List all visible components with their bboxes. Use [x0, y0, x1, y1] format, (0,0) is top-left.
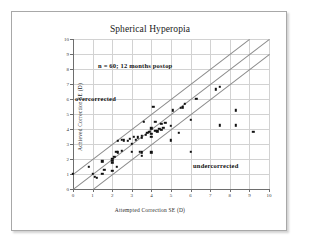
- y-axis-tick: [70, 114, 73, 115]
- x-axis-tick: [210, 189, 211, 192]
- reference-line-plus-one-diopter: [73, 39, 250, 175]
- scatter-point: [135, 138, 137, 140]
- scatter-point: [136, 136, 138, 138]
- scatter-point: [150, 151, 152, 153]
- scatter-point: [184, 102, 186, 104]
- y-axis-tick: [70, 159, 73, 160]
- y-axis-tick-label: 6: [67, 97, 70, 102]
- scatter-point: [170, 125, 172, 127]
- scatter-point: [178, 132, 180, 134]
- scatter-point: [95, 177, 97, 179]
- x-axis-title: Attempted Correction SE (D): [12, 207, 288, 213]
- scatter-point: [162, 126, 164, 128]
- scatter-point: [195, 98, 197, 100]
- x-axis-tick-label: 2: [111, 193, 114, 198]
- scatter-point: [140, 135, 142, 137]
- scatter-point: [113, 156, 115, 158]
- y-axis-tick-label: 8: [67, 67, 70, 72]
- scatter-point: [87, 165, 89, 167]
- x-axis-tick: [112, 189, 113, 192]
- y-axis-tick: [70, 144, 73, 145]
- x-axis-tick-label: 7: [209, 193, 212, 198]
- x-axis-tick: [230, 189, 231, 192]
- y-axis-tick: [70, 129, 73, 130]
- y-axis-tick-label: 10: [64, 37, 69, 42]
- scatter-point: [219, 124, 221, 126]
- x-axis-tick-label: 6: [189, 193, 192, 198]
- y-axis-tick: [70, 84, 73, 85]
- scatter-plot-area: 012345678910012345678910 n = 60; 12 mont…: [73, 39, 269, 189]
- x-axis-tick-label: 0: [72, 193, 75, 198]
- scatter-point: [160, 129, 162, 131]
- scatter-point: [103, 168, 105, 170]
- x-axis-tick-label: 10: [267, 193, 272, 198]
- x-axis-tick-label: 3: [131, 193, 134, 198]
- x-axis-tick: [249, 189, 250, 192]
- scatter-point: [121, 150, 123, 152]
- slide-canvas: Spherical Hyperopia 01234567891001234567…: [11, 11, 287, 231]
- x-axis-tick: [269, 189, 270, 192]
- scatter-point: [252, 131, 254, 133]
- scatter-point: [160, 123, 162, 125]
- gridline-horizontal: [73, 54, 269, 55]
- reference-line-minus-one-diopter: [93, 54, 270, 190]
- y-axis-tick: [70, 54, 73, 55]
- gridline-horizontal: [73, 39, 269, 40]
- x-axis-tick-label: 4: [150, 193, 153, 198]
- scatter-point: [127, 140, 129, 142]
- y-axis-tick-label: 2: [67, 157, 70, 162]
- y-axis-tick-label: 5: [67, 112, 70, 117]
- y-axis-tick-label: 0: [67, 187, 70, 192]
- scatter-point: [234, 124, 236, 126]
- x-axis-tick-label: 9: [248, 193, 251, 198]
- scatter-point: [111, 170, 113, 172]
- x-axis-tick-label: 1: [91, 193, 94, 198]
- gridline-horizontal: [73, 144, 269, 145]
- scatter-point: [170, 139, 172, 141]
- scatter-point: [215, 88, 217, 90]
- scatter-point: [189, 119, 191, 121]
- scatter-point: [117, 151, 119, 153]
- gridline-horizontal: [73, 69, 269, 70]
- gridline-vertical: [269, 39, 270, 189]
- scatter-point: [72, 173, 74, 175]
- scatter-point: [140, 155, 142, 157]
- scatter-point: [116, 165, 118, 167]
- x-axis-tick-label: 8: [229, 193, 232, 198]
- scatter-point: [154, 120, 156, 122]
- y-axis-tick-label: 4: [67, 127, 70, 132]
- scatter-point: [129, 138, 131, 140]
- scatter-point: [164, 122, 166, 124]
- scatter-point: [101, 160, 103, 162]
- x-axis-tick: [171, 189, 172, 192]
- scatter-point: [182, 106, 184, 108]
- scatter-point: [150, 132, 152, 134]
- y-axis-tick: [70, 69, 73, 70]
- scatter-point: [140, 137, 142, 139]
- annotation-sample-size: n = 60; 12 months postop: [98, 62, 172, 69]
- scatter-point: [131, 143, 133, 145]
- y-axis-tick-label: 7: [67, 82, 70, 87]
- scatter-point: [152, 105, 154, 107]
- y-axis-title: Achieved Correction SE (D): [77, 83, 83, 151]
- scatter-point: [234, 109, 236, 111]
- scatter-point: [131, 150, 133, 152]
- x-axis-tick: [151, 189, 152, 192]
- gridline-horizontal: [73, 84, 269, 85]
- scatter-point: [156, 130, 158, 132]
- scatter-point: [150, 127, 152, 129]
- scatter-point: [117, 140, 119, 142]
- y-axis-line: [73, 39, 74, 190]
- scatter-point: [123, 139, 125, 141]
- annotation-undercorrected: undercorrected: [193, 162, 239, 169]
- y-axis-tick: [70, 39, 73, 40]
- scatter-point: [101, 173, 103, 175]
- y-axis-tick-label: 3: [67, 142, 70, 147]
- y-axis-tick-label: 1: [67, 172, 70, 177]
- scatter-point: [111, 158, 113, 160]
- x-axis-tick: [132, 189, 133, 192]
- scatter-point: [150, 135, 152, 137]
- scatter-point: [219, 86, 221, 88]
- scatter-point: [142, 120, 144, 122]
- y-axis-tick: [70, 99, 73, 100]
